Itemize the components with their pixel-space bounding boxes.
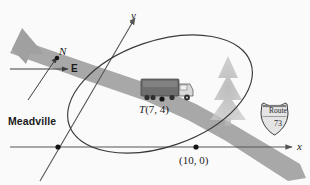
truck-point-label: T(7, 4) [139,104,169,115]
point-truck [159,96,164,101]
point-x-intercept [193,144,198,149]
east-label: E [71,64,78,74]
meadville-label: Meadville [8,116,56,127]
north-label: N [59,46,66,57]
route-shield-number: 73 [264,120,292,128]
y-axis-label: y [131,10,136,21]
x-axis-label: x [297,141,302,152]
figure-graphics [0,0,310,185]
y-axis [40,18,135,181]
point-origin [55,144,60,149]
figure-canvas: y x N E Meadville T(7, 4) (10, 0) Route … [0,0,310,185]
x-intercept-label: (10, 0) [179,155,208,166]
truck-point-coords: (7, 4) [145,103,169,115]
route-shield-word: Route [264,107,292,115]
